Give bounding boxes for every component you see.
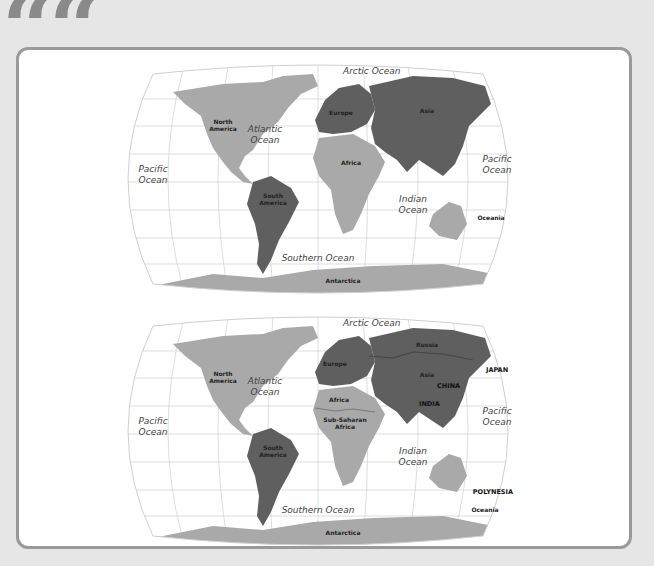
north-america-label-2: America (209, 377, 237, 384)
indian-ocean-label: Indian (399, 446, 427, 456)
pacific-ocean-east-label: Pacific (482, 406, 511, 416)
pacific-ocean-east-label: Pacific (482, 154, 511, 164)
africa-label: Africa (329, 396, 349, 403)
sub-saharan-africa-label-2: Africa (335, 423, 355, 430)
pacific-ocean-east-label-2: Ocean (483, 417, 512, 427)
indian-ocean-label-2: Ocean (399, 457, 428, 467)
asia-label: Asia (420, 107, 434, 114)
arctic-ocean-label: Arctic Ocean (342, 66, 401, 76)
north-america-label: North (213, 118, 232, 125)
north-america-label: North (213, 370, 232, 377)
southern-ocean-label: Southern Ocean (282, 253, 355, 263)
south-america-label: South (263, 192, 283, 199)
pacific-ocean-west-label: Pacific (138, 416, 167, 426)
regions-map: Arctic Ocean Atlantic Ocean Pacific Ocea… (113, 316, 523, 546)
japan-label: JAPAN (485, 366, 508, 374)
atlantic-ocean-label-2: Ocean (251, 135, 280, 145)
china-label: CHINA (437, 382, 460, 390)
south-america-label-2: America (259, 199, 287, 206)
maps-card: Arctic Ocean Atlantic Ocean Pacific Ocea… (16, 47, 632, 549)
atlantic-ocean-label: Atlantic (247, 124, 282, 134)
southern-ocean-label: Southern Ocean (282, 505, 355, 515)
europe-label: Europe (329, 109, 353, 117)
north-america-label-2: America (209, 125, 237, 132)
indian-ocean-label-2: Ocean (399, 205, 428, 215)
pacific-ocean-west-label-2: Ocean (139, 427, 168, 437)
arctic-ocean-label: Arctic Ocean (342, 318, 401, 328)
india-label: INDIA (419, 400, 440, 408)
antarctica-label: Antarctica (326, 529, 361, 536)
oceania-label: Oceania (471, 506, 498, 513)
russia-label: Russia (416, 341, 438, 348)
pacific-ocean-east-label-2: Ocean (483, 165, 512, 175)
south-america-label: South (263, 444, 283, 451)
antarctica-label: Antarctica (326, 277, 361, 284)
atlantic-ocean-label-2: Ocean (251, 387, 280, 397)
sub-saharan-africa-label: Sub-Saharan (323, 416, 366, 423)
pacific-ocean-west-label: Pacific (138, 164, 167, 174)
continents-map: Arctic Ocean Atlantic Ocean Pacific Ocea… (113, 64, 523, 294)
africa-label: Africa (341, 159, 361, 166)
pacific-ocean-west-label-2: Ocean (139, 175, 168, 185)
south-america-label-2: America (259, 451, 287, 458)
atlantic-ocean-label: Atlantic (247, 376, 282, 386)
oceania-label: Oceania (477, 214, 504, 221)
asia-label: Asia (420, 371, 434, 378)
europe-label: Europe (323, 360, 347, 368)
polynesia-label: POLYNESIA (473, 488, 513, 496)
indian-ocean-label: Indian (399, 194, 427, 204)
